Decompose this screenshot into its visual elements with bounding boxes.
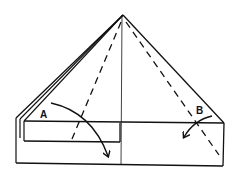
triangle-left-layers bbox=[16, 15, 123, 121]
valley-fold-right bbox=[126, 22, 219, 155]
fold-arrow-b bbox=[184, 116, 212, 137]
label-a: A bbox=[40, 109, 47, 120]
left-layer-edges bbox=[16, 118, 24, 163]
label-b: B bbox=[196, 105, 203, 116]
fold-arrow-a bbox=[51, 103, 108, 156]
inner-flap bbox=[24, 123, 120, 142]
triangle-right-edge bbox=[123, 15, 224, 123]
center-crease bbox=[121, 15, 122, 165]
origami-diagram: A B bbox=[0, 0, 237, 175]
